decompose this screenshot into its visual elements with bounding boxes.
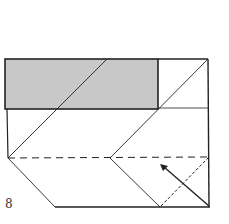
step-number: 8 bbox=[5, 197, 13, 211]
valley-fold-line-dashed bbox=[8, 157, 208, 158]
fold-arrow bbox=[164, 167, 209, 206]
origami-diagram bbox=[0, 0, 229, 224]
